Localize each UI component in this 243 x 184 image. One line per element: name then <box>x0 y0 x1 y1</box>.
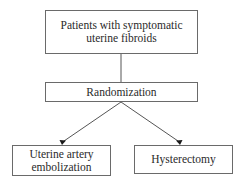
arrow-randomization-to-hysterectomy <box>121 102 178 141</box>
node-uae-line1: Uterine artery <box>29 148 93 161</box>
node-uae-line2: embolization <box>29 161 93 174</box>
node-randomization: Randomization <box>45 82 198 102</box>
node-patients-with-fibroids: Patients with symptomatic uterine fibroi… <box>45 10 198 54</box>
node-patients-line1: Patients with symptomatic <box>60 19 182 32</box>
node-hysterectomy: Hysterectomy <box>134 145 233 174</box>
node-uterine-artery-embolization: Uterine artery embolization <box>12 145 111 176</box>
node-randomization-label: Randomization <box>86 86 156 99</box>
arrow-randomization-to-uae <box>64 102 121 141</box>
node-hysterectomy-label: Hysterectomy <box>151 153 216 166</box>
node-patients-line2: uterine fibroids <box>60 32 182 45</box>
